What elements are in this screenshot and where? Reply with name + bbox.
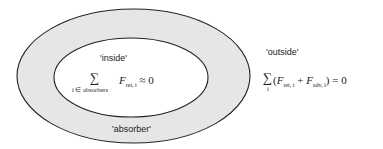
equals-zero: ) = 0 [326,74,347,86]
force-subscript: ret, i [126,82,137,88]
force-symbol: F [119,74,126,86]
outside-equation: ∑ i (Fret, i + Fadv, i) = 0 [263,72,383,102]
sum-index: i ∈ absorbers [72,86,108,94]
absorber-label: 'absorber' [112,124,151,134]
approx-zero: ≈ 0 [139,74,153,86]
inside-force-term: Fret, i ≈ 0 [119,74,154,88]
sum-index: i [267,85,269,92]
sum-symbol: ∑ [90,72,99,84]
sum-symbol: ∑ [263,72,272,84]
force-ret-subscript: ret, i [283,82,294,88]
outside-force-terms: (Fret, i + Fadv, i) = 0 [273,74,347,88]
force-adv-subscript: adv, i [313,82,326,88]
force-adv-symbol: F [306,74,313,86]
plus-sign: + [294,74,306,86]
outside-label: 'outside' [266,47,298,57]
inside-equation: ∑ i ∈ absorbers Fret, i ≈ 0 [72,72,212,102]
inside-label: 'inside' [100,53,127,63]
